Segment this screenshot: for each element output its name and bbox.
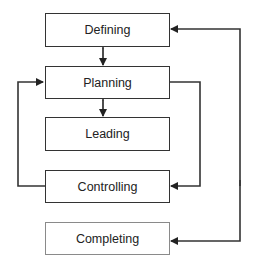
completing-label: Completing bbox=[76, 232, 139, 246]
planning-to-controlling-connector bbox=[169, 82, 200, 186]
defining-box: Defining bbox=[45, 13, 170, 47]
outer-loop-to-defining-connector bbox=[171, 29, 240, 186]
leading-label: Leading bbox=[85, 127, 130, 141]
controlling-box: Controlling bbox=[45, 170, 170, 203]
controlling-to-planning-connector bbox=[18, 82, 45, 186]
outer-loop-to-completing-connector bbox=[171, 180, 240, 241]
leading-box: Leading bbox=[45, 117, 170, 151]
defining-label: Defining bbox=[85, 23, 131, 37]
planning-box: Planning bbox=[45, 66, 170, 99]
planning-label: Planning bbox=[83, 76, 132, 90]
completing-box: Completing bbox=[45, 222, 170, 255]
controlling-label: Controlling bbox=[78, 180, 138, 194]
